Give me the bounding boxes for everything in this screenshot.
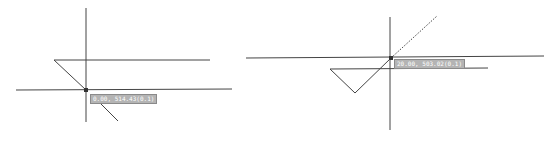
left-snap-marker-icon: [84, 88, 88, 92]
drawing-canvas[interactable]: [0, 0, 554, 144]
right-line-5[interactable]: [391, 16, 437, 58]
right-snap-marker-icon: [389, 56, 393, 60]
right-line-3[interactable]: [330, 69, 355, 93]
left-line-3[interactable]: [54, 60, 86, 90]
right-line-1[interactable]: [246, 56, 544, 58]
left-line-2[interactable]: [16, 89, 232, 90]
coordinate-tooltip-left: 0.00, 514.43(0.1): [90, 94, 157, 104]
right-line-4[interactable]: [355, 58, 391, 93]
coordinate-tooltip-right: 20.00, 503.02(0.1): [394, 59, 465, 69]
